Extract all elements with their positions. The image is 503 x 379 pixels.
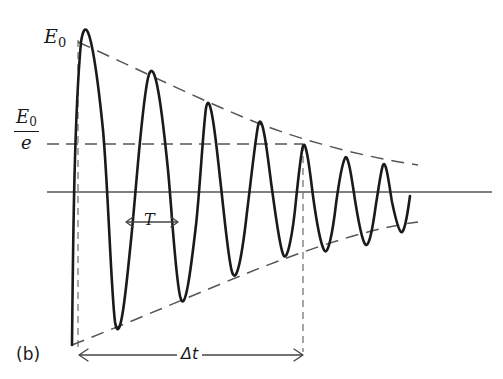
label-coherence-time: Δt [177,344,202,363]
label-period-t: T [144,210,155,229]
damped-field-curve [72,29,410,345]
label-e0e-symbol: E [16,106,29,127]
label-e0-symbol: E [44,25,58,47]
figure-panel-b: E0 E0 e T Δt (b) [0,0,503,379]
label-amplitude-e0-over-e: E0 e [14,108,39,153]
label-e0-subscript: 0 [58,35,66,50]
damped-oscillation-plot [0,0,503,379]
panel-label: (b) [16,344,40,364]
fraction-numerator: E0 [14,108,39,130]
lower-envelope-curve [72,222,418,345]
label-amplitude-e0: E0 [44,25,66,50]
fraction-denominator: e [14,133,39,153]
label-e0e-subscript: 0 [29,115,37,129]
upper-envelope-curve [78,42,418,165]
